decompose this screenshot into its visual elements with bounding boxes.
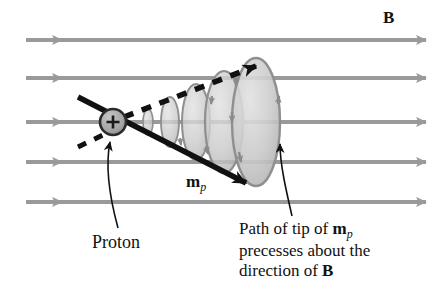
diagram-canvas (0, 0, 442, 296)
precession-ellipse-5 (232, 58, 280, 186)
proton-particle (100, 109, 126, 135)
proton-label: Proton (92, 232, 140, 252)
caption-moment-symbol: m (333, 219, 347, 238)
caption-line-3-text: direction of (239, 261, 322, 280)
caption-line-2: precesses about the (239, 241, 370, 261)
physics-figure-precessing-proton: B mp Proton Path of tip of mp precesses … (0, 0, 442, 296)
proton-leader-line (108, 142, 118, 228)
magnetic-field-label: B (383, 8, 394, 27)
caption-line-3: direction of B (239, 261, 370, 281)
moment-symbol: m (186, 172, 200, 191)
magnetic-moment-label: mp (186, 172, 206, 194)
caption-moment-subscript: p (347, 227, 353, 241)
moment-subscript: p (200, 180, 206, 194)
caption-line-1-text: Path of tip of (239, 219, 333, 238)
caption-field-symbol: B (322, 261, 333, 280)
caption-line-1: Path of tip of mp (239, 219, 370, 241)
caption-leader-line (280, 144, 292, 216)
precession-caption: Path of tip of mp precesses about the di… (239, 219, 370, 281)
